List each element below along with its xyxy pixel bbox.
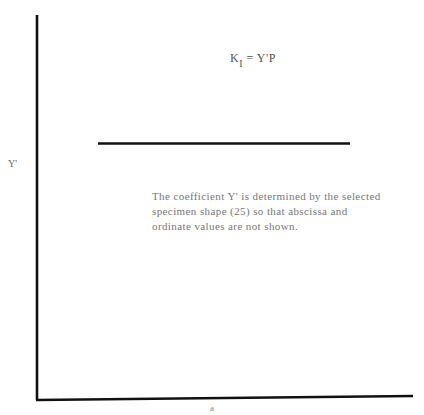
formula-lhs: K: [230, 51, 239, 65]
formula-equals: =: [247, 51, 254, 65]
x-axis-label: a: [210, 403, 214, 413]
annotation-text: The coefficient Y' is determined by the …: [152, 189, 382, 234]
formula: KI = Y'P: [230, 51, 276, 66]
formula-rhs: Y'P: [257, 51, 276, 65]
y-axis-label: Y': [8, 158, 17, 169]
x-axis: [36, 396, 413, 400]
formula-lhs-subscript: I: [239, 58, 243, 69]
